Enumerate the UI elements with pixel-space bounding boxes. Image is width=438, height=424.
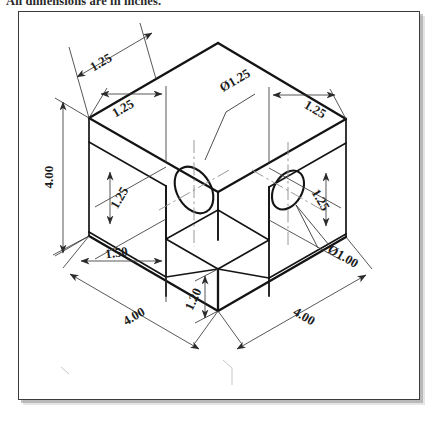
ext-top-depth-2 — [140, 23, 156, 79]
edge-floor-back-left — [166, 210, 218, 239]
artifact-mark-center — [223, 360, 232, 385]
centerlines-group — [159, 140, 324, 247]
ext-floor-a — [53, 236, 89, 255]
scan-artifacts — [61, 360, 232, 385]
ext-base-b — [195, 311, 218, 323]
dimline-top-depth — [77, 33, 152, 77]
dim-right-wall-label: 1.25 — [302, 97, 330, 122]
ext-left-hole-h-top — [95, 167, 166, 207]
artifact-mark-left — [61, 367, 69, 374]
dim-top-depth-label: 1.25 — [87, 50, 115, 75]
ext-width-left-b — [195, 311, 218, 343]
dim-left-height-label: 4.00 — [41, 166, 56, 189]
ext-width-right-a — [218, 311, 241, 343]
dim-left-wall-label: 1.25 — [109, 96, 137, 121]
edge-base-top-front-right — [218, 269, 269, 278]
figure-page: All dimensions are in inches. — [0, 0, 438, 424]
edge-floor-left — [166, 239, 218, 269]
dim-floor-label: 1.50 — [104, 244, 129, 262]
ext-top-depth-1 — [69, 47, 89, 118]
edge-wall-left-top-inner — [89, 142, 166, 186]
dim-left-hole-h-label: 1.25 — [107, 184, 132, 212]
isometric-drawing: 1.25 4.00 1.25 1.25 Ø1.25 1.25 1.25 Ø1.0… — [19, 12, 419, 399]
edge-floor-back-right — [218, 210, 269, 240]
edge-floor-right — [218, 240, 269, 269]
dim-base-label: 1.20 — [181, 286, 204, 313]
dim-width-right-label: 4.00 — [291, 304, 318, 328]
figure-caption: All dimensions are in inches. — [6, 0, 161, 6]
edge-top-inner-right — [218, 119, 346, 192]
leader-lines — [205, 94, 329, 248]
holes-group — [167, 160, 311, 220]
edge-wall-right-top-inner — [269, 143, 346, 187]
figure-frame: 1.25 4.00 1.25 1.25 Ø1.25 1.25 1.25 Ø1.0… — [18, 11, 420, 400]
dimension-lines — [53, 23, 372, 349]
edge-top-inner-left — [89, 118, 218, 192]
ext-width-left-a — [63, 236, 89, 268]
dim-right-hole-h-label: 1.25 — [309, 186, 334, 214]
leader-hole-left — [205, 94, 255, 160]
dim-hole-left-label: Ø1.25 — [217, 65, 253, 95]
edge-base-front-right — [218, 237, 346, 311]
dim-hole-right-label: Ø1.00 — [325, 241, 361, 270]
dim-width-left-label: 4.00 — [120, 304, 147, 328]
